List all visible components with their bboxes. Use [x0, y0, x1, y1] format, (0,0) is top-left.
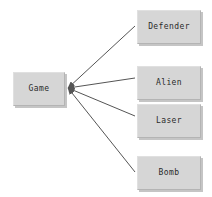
node-bomb-label: Bomb: [159, 169, 180, 177]
node-defender-label: Defender: [148, 23, 190, 31]
edge-bomb-to-game: [68, 88, 135, 172]
edge-laser-to-game: [68, 88, 135, 116]
node-alien[interactable]: Alien: [137, 66, 201, 100]
node-bomb[interactable]: Bomb: [137, 156, 201, 190]
edge-defender-to-game: [68, 26, 135, 88]
node-game-label: Game: [29, 85, 50, 93]
node-alien-label: Alien: [156, 79, 182, 87]
node-game[interactable]: Game: [13, 72, 65, 106]
edge-alien-to-game: [68, 78, 135, 88]
diagram-canvas: Game Defender Alien Laser Bomb: [0, 0, 212, 197]
node-defender[interactable]: Defender: [137, 10, 201, 44]
node-laser[interactable]: Laser: [137, 104, 201, 138]
node-laser-label: Laser: [156, 117, 182, 125]
